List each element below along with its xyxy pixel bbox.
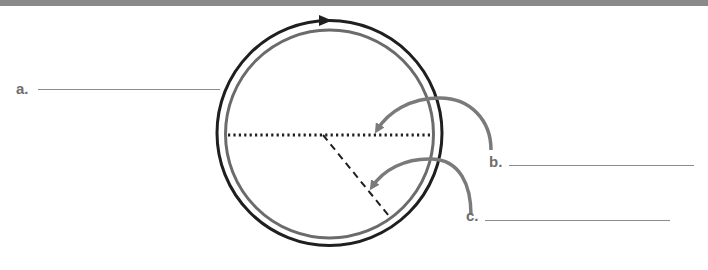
circle-diagram bbox=[0, 0, 708, 270]
answer-blank-b[interactable] bbox=[509, 165, 694, 166]
arrow-c bbox=[372, 159, 471, 215]
direction-arrow-icon bbox=[319, 15, 332, 26]
answer-blank-a[interactable] bbox=[38, 89, 220, 90]
label-a: a. bbox=[16, 81, 29, 96]
outer-circle bbox=[217, 21, 442, 246]
label-b: b. bbox=[489, 154, 502, 169]
label-c: c. bbox=[466, 208, 479, 223]
dashed-radius-line bbox=[323, 135, 389, 216]
answer-blank-c[interactable] bbox=[485, 220, 670, 221]
